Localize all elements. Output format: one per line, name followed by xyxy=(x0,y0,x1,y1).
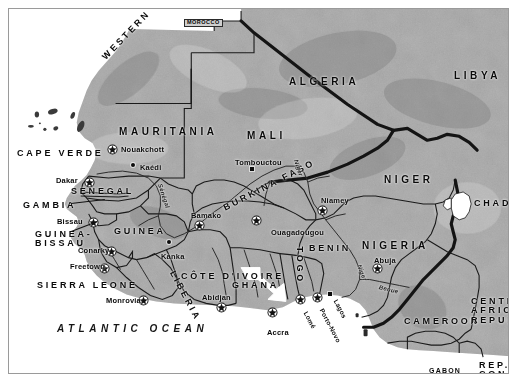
map-vector-layer xyxy=(9,9,508,373)
map-screenshot: MOROCCOWESTERN SAHARAALGERIALIBYAMAURITA… xyxy=(0,0,518,382)
map-canvas xyxy=(9,9,508,373)
map-frame: MOROCCOWESTERN SAHARAALGERIALIBYAMAURITA… xyxy=(8,8,509,374)
